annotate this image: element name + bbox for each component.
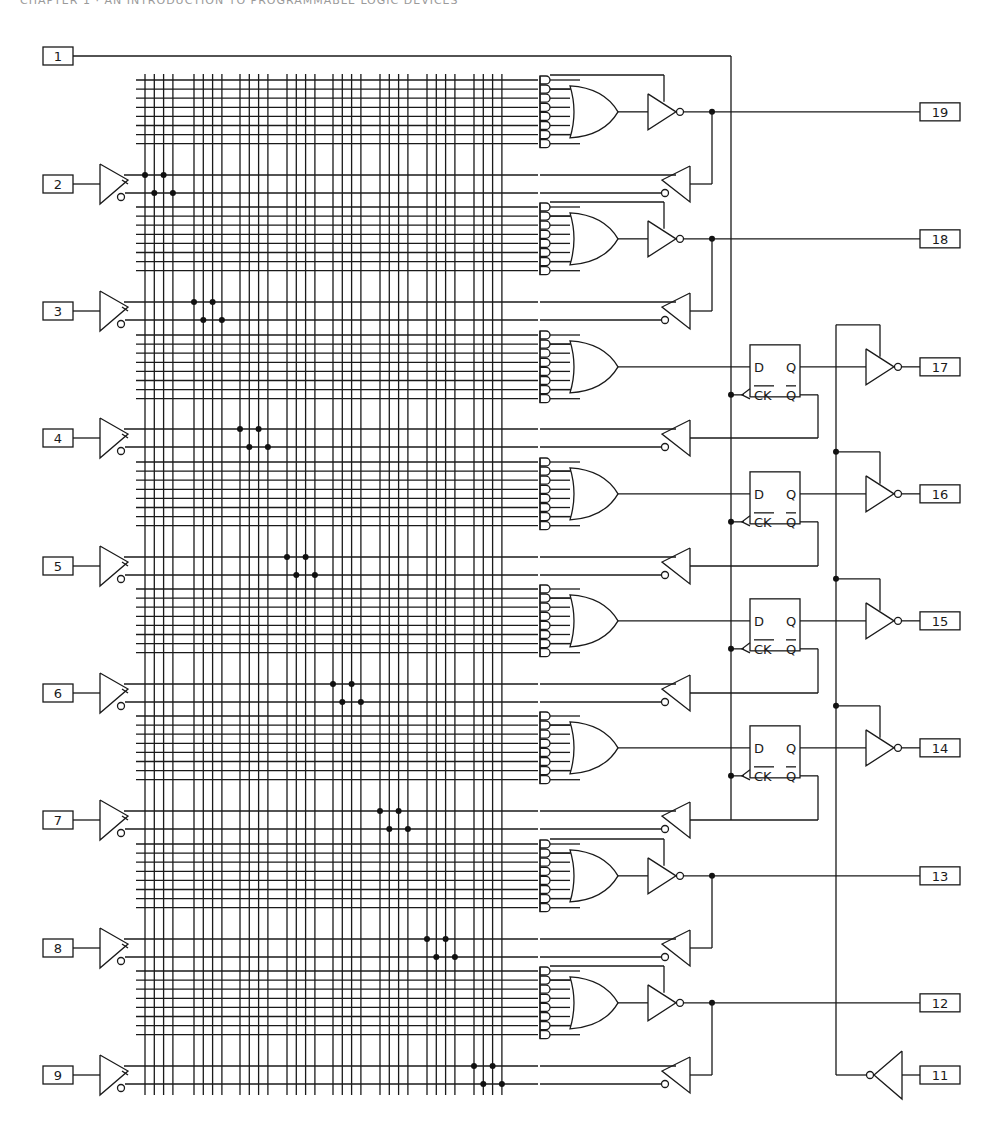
output-pin-19[interactable]: 19 <box>920 103 960 121</box>
ff-qbar-label: Q <box>786 515 796 530</box>
input-pin-4[interactable]: 4 <box>43 429 73 447</box>
input-pin-11[interactable]: 11 <box>920 1066 960 1084</box>
ff-qbar-label: Q <box>786 642 796 657</box>
input-pin-8[interactable]: 8 <box>43 939 73 957</box>
pal-logic-diagram: 1234567891918DQCKQ17DQCKQ16DQCKQ15DQCKQ1… <box>0 0 999 1125</box>
macrocell-15: DQCKQ <box>540 579 920 711</box>
input-pin-3-label: 3 <box>54 304 62 319</box>
output-pin-16-label: 16 <box>932 487 949 502</box>
ff-ck-label: CK <box>754 769 772 784</box>
macrocell-12 <box>540 966 920 1093</box>
d-flip-flop: DQCKQ <box>742 345 800 403</box>
ff-d-label: D <box>754 614 764 629</box>
output-pin-12-label: 12 <box>932 996 949 1011</box>
ff-q-label: Q <box>786 741 796 756</box>
output-pin-19-label: 19 <box>932 105 949 120</box>
input-pin-5[interactable]: 5 <box>43 557 73 575</box>
ff-ck-label: CK <box>754 515 772 530</box>
output-pin-17-label: 17 <box>932 360 949 375</box>
d-flip-flop: DQCKQ <box>742 472 800 530</box>
output-pin-18-label: 18 <box>932 232 949 247</box>
output-pin-17[interactable]: 17 <box>920 358 960 376</box>
input-pin-6-label: 6 <box>54 686 62 701</box>
macrocell-18 <box>540 202 920 329</box>
output-pin-15[interactable]: 15 <box>920 612 960 630</box>
output-pin-18[interactable]: 18 <box>920 230 960 248</box>
and-array-grid <box>136 74 538 1095</box>
input-pin-1-label: 1 <box>54 49 62 64</box>
ff-ck-label: CK <box>754 642 772 657</box>
input-pin-7[interactable]: 7 <box>43 811 73 829</box>
macrocell-17: DQCKQ <box>540 325 920 456</box>
d-flip-flop: DQCKQ <box>742 599 800 657</box>
output-pin-14-label: 14 <box>932 741 949 756</box>
input-pin-7-label: 7 <box>54 813 62 828</box>
input-pin-6[interactable]: 6 <box>43 684 73 702</box>
input-pin-2[interactable]: 2 <box>43 175 73 193</box>
input-pin-1[interactable]: 1 <box>43 47 73 65</box>
macrocell-13 <box>540 839 920 966</box>
input-pin-8-label: 8 <box>54 941 62 956</box>
input-pin-9-label: 9 <box>54 1068 62 1083</box>
ff-q-label: Q <box>786 614 796 629</box>
output-pin-15-label: 15 <box>932 614 949 629</box>
macrocell-16: DQCKQ <box>540 452 920 584</box>
output-pin-12[interactable]: 12 <box>920 994 960 1012</box>
input-pin-9[interactable]: 9 <box>43 1066 73 1084</box>
d-flip-flop: DQCKQ <box>742 726 800 784</box>
output-enable-bus <box>833 325 920 1099</box>
output-pin-14[interactable]: 14 <box>920 739 960 757</box>
ff-ck-label: CK <box>754 388 772 403</box>
ff-q-label: Q <box>786 487 796 502</box>
input-pin-5-label: 5 <box>54 559 62 574</box>
ff-d-label: D <box>754 741 764 756</box>
ff-qbar-label: Q <box>786 388 796 403</box>
output-pin-13-label: 13 <box>932 869 949 884</box>
output-pin-13[interactable]: 13 <box>920 867 960 885</box>
input-pin-2-label: 2 <box>54 177 62 192</box>
ff-q-label: Q <box>786 360 796 375</box>
ff-d-label: D <box>754 360 764 375</box>
macrocell-19 <box>540 75 920 202</box>
input-pin-11-label: 11 <box>932 1068 949 1083</box>
input-pin-4-label: 4 <box>54 431 62 446</box>
macrocell-14: DQCKQ <box>540 706 920 838</box>
ff-qbar-label: Q <box>786 769 796 784</box>
output-pin-16[interactable]: 16 <box>920 485 960 503</box>
input-pin-3[interactable]: 3 <box>43 302 73 320</box>
ff-d-label: D <box>754 487 764 502</box>
